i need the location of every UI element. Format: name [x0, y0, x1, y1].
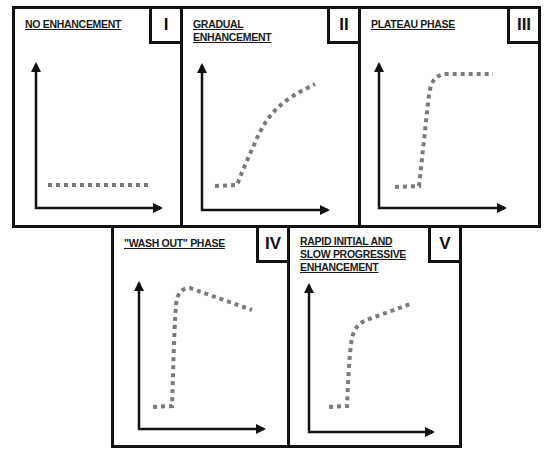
axes-panel-v [309, 285, 433, 432]
curve-panel-ii [215, 84, 315, 186]
curve-panel-iii [395, 74, 493, 187]
curves-overlay [0, 0, 545, 455]
axes-panel-iv [139, 283, 264, 429]
curve-panel-v [329, 304, 410, 407]
curve-panel-iv [153, 288, 252, 407]
